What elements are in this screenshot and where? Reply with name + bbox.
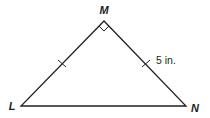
- right-angle-marker: [99, 26, 109, 31]
- vertex-label-l: L: [9, 100, 16, 112]
- triangle-diagram: M L N 5 in.: [0, 0, 210, 118]
- vertex-label-m: M: [99, 4, 109, 16]
- vertex-label-n: N: [191, 102, 200, 114]
- side-length-label: 5 in.: [156, 54, 176, 66]
